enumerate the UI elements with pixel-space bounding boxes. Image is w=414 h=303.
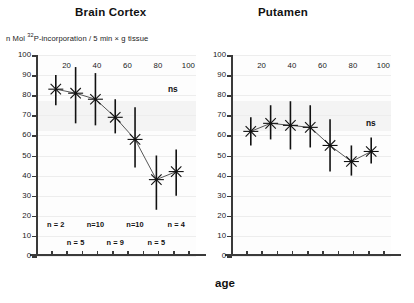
plot-putamen: 010203040506070809010020406080100 bbox=[231, 55, 391, 256]
y-axis-tick-label: 50 bbox=[22, 152, 31, 160]
y-axis-tick bbox=[227, 256, 232, 258]
y-axis-tick-label: 60 bbox=[217, 131, 226, 139]
gridline-y bbox=[36, 256, 196, 257]
sample-size-label: n = 4 bbox=[167, 220, 185, 229]
sample-size-label: n=10 bbox=[126, 220, 143, 229]
y-axis-tick-label: 10 bbox=[22, 232, 31, 240]
sample-size-label: n = 9 bbox=[106, 238, 124, 247]
y-axis-tick-label: 80 bbox=[217, 91, 226, 99]
figure-root: Brain Cortex Putamen n Mol 32P-incorpora… bbox=[0, 0, 414, 303]
data-point-group bbox=[108, 99, 123, 133]
y-axis-tick-label: 0 bbox=[222, 252, 226, 260]
sample-size-label: n = 5 bbox=[148, 238, 166, 247]
data-point-group bbox=[323, 119, 338, 171]
sample-size-label: n = 2 bbox=[47, 220, 65, 229]
y-axis-tick-label: 100 bbox=[213, 51, 226, 59]
y-axis-tick bbox=[32, 256, 37, 258]
y-axis-tick-label: 90 bbox=[22, 71, 31, 79]
gridline-y bbox=[231, 256, 391, 257]
y-axis-tick-label: 0 bbox=[27, 252, 31, 260]
sample-size-label: n = 5 bbox=[67, 238, 85, 247]
data-point-group bbox=[303, 105, 318, 147]
data-point-group bbox=[128, 107, 143, 167]
y-axis-tick-label: 40 bbox=[22, 172, 31, 180]
y-axis-caption-prefix: n Mol bbox=[6, 34, 27, 43]
y-axis-tick-label: 100 bbox=[18, 51, 31, 59]
data-point-group bbox=[243, 117, 258, 145]
annotation-ns-putamen: ns bbox=[366, 118, 376, 128]
data-point-group bbox=[283, 101, 298, 149]
annotation-ns-brain-cortex: ns bbox=[168, 84, 178, 94]
data-point-group bbox=[169, 149, 184, 195]
panel-title-brain-cortex: Brain Cortex bbox=[75, 6, 146, 18]
y-axis-tick-label: 20 bbox=[22, 212, 31, 220]
data-point-group bbox=[344, 145, 359, 175]
series-putamen bbox=[231, 55, 391, 256]
y-axis-caption-suffix: P-incorporation / 5 min × g tissue bbox=[34, 34, 149, 43]
y-axis-caption: n Mol 32P-incorporation / 5 min × g tiss… bbox=[6, 32, 148, 43]
y-axis-tick-label: 60 bbox=[22, 131, 31, 139]
sample-size-label: n=10 bbox=[87, 220, 104, 229]
y-axis-tick-label: 10 bbox=[217, 232, 226, 240]
y-axis-tick-label: 80 bbox=[22, 91, 31, 99]
data-point-group bbox=[263, 105, 278, 139]
y-axis-tick-label: 50 bbox=[217, 152, 226, 160]
y-axis-tick-label: 30 bbox=[217, 192, 226, 200]
data-point-group bbox=[364, 137, 379, 163]
y-axis-tick-label: 40 bbox=[217, 172, 226, 180]
panel-title-putamen: Putamen bbox=[258, 6, 308, 18]
data-point-group bbox=[88, 73, 103, 125]
y-axis-tick-label: 20 bbox=[217, 212, 226, 220]
x-axis-caption: age bbox=[215, 277, 235, 289]
y-axis-tick-label: 70 bbox=[217, 111, 226, 119]
y-axis-tick-label: 30 bbox=[22, 192, 31, 200]
y-axis-tick-label: 90 bbox=[217, 71, 226, 79]
y-axis-tick-label: 70 bbox=[22, 111, 31, 119]
data-point-group bbox=[149, 156, 164, 210]
